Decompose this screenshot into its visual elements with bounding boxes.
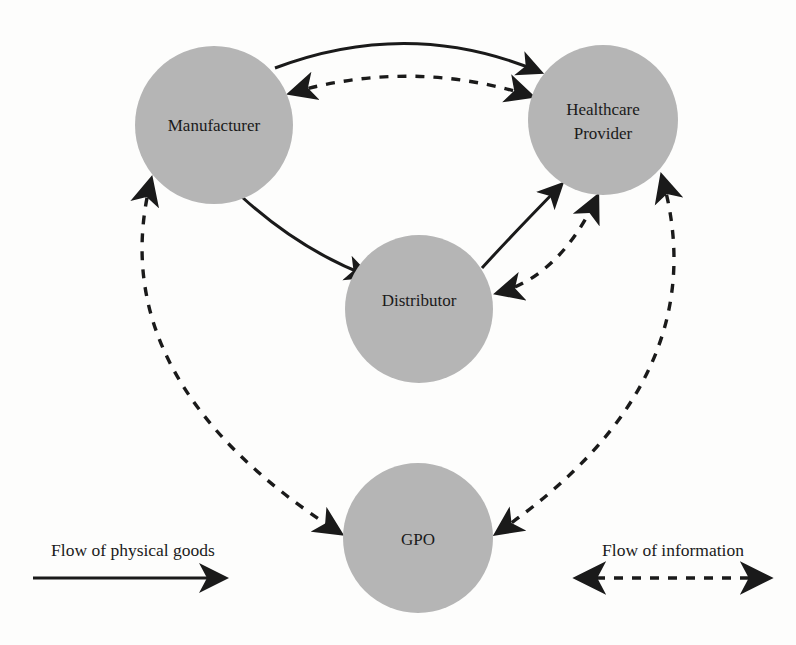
edge-distributor-to-provider-goods xyxy=(482,185,561,268)
edge-manufacturer-provider-information xyxy=(291,76,531,96)
node-healthcare-provider-label-line2: Provider xyxy=(574,124,633,143)
edge-provider-gpo-information xyxy=(497,177,674,533)
node-manufacturer-label: Manufacturer xyxy=(168,116,261,135)
node-distributor[interactable]: Distributor xyxy=(345,235,493,383)
edge-manufacturer-to-provider-goods xyxy=(275,43,540,72)
node-gpo[interactable]: GPO xyxy=(343,463,493,613)
node-manufacturer[interactable]: Manufacturer xyxy=(135,46,293,204)
legend-physical-goods-label: Flow of physical goods xyxy=(51,540,215,560)
node-gpo-label: GPO xyxy=(401,530,435,549)
edge-manufacturer-to-distributor-goods xyxy=(242,197,368,276)
legend-physical-goods: Flow of physical goods xyxy=(33,540,224,578)
node-distributor-label: Distributor xyxy=(382,291,457,310)
node-healthcare-provider-circle xyxy=(528,45,678,195)
node-healthcare-provider[interactable]: Healthcare Provider xyxy=(528,45,678,195)
edge-distributor-provider-information xyxy=(498,197,597,293)
legend-information: Flow of information xyxy=(578,540,768,578)
node-healthcare-provider-label-line1: Healthcare xyxy=(566,100,640,119)
supply-chain-diagram: Manufacturer Healthcare Provider Distrib… xyxy=(0,0,796,645)
edge-manufacturer-gpo-information xyxy=(142,180,340,533)
legend-information-label: Flow of information xyxy=(602,540,744,560)
diagram-canvas: Manufacturer Healthcare Provider Distrib… xyxy=(0,0,796,645)
